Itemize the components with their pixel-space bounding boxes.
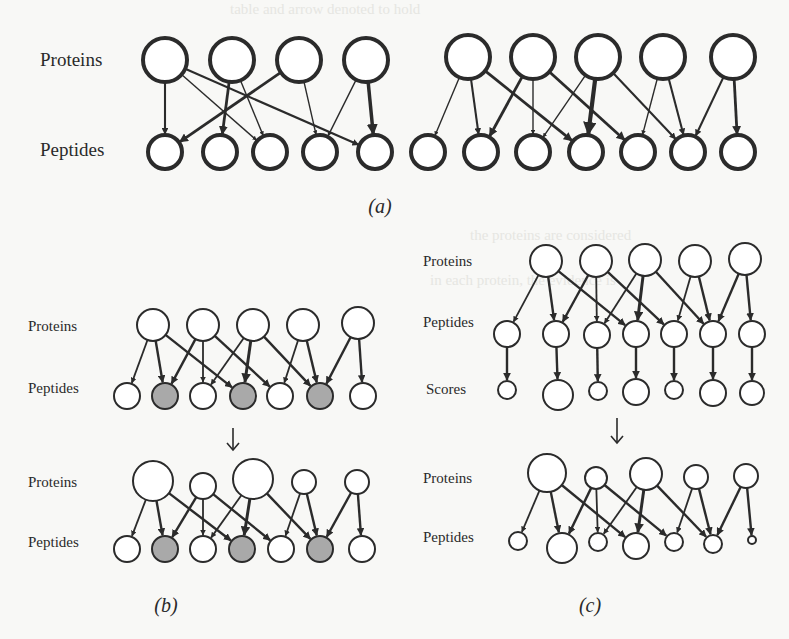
protein-node [679, 245, 711, 277]
peptide-node [358, 135, 392, 169]
score-node [498, 381, 516, 399]
panel-caption-b: (b) [154, 594, 178, 617]
protein-node [292, 470, 316, 494]
edge-arrow [359, 339, 362, 382]
protein-node [729, 243, 761, 275]
peptide-node [569, 135, 603, 169]
peptide-node [589, 533, 607, 551]
protein-node [190, 473, 216, 499]
row-label-proteins: Proteins [28, 318, 77, 334]
figure-protein-peptide-graphs: table and arrow denoted to hold the prot… [0, 0, 789, 639]
edge-arrow [638, 276, 643, 320]
edge-arrow [245, 341, 251, 382]
protein-node [734, 464, 758, 488]
edge-arrow [746, 275, 750, 320]
protein-node [143, 38, 187, 82]
edge-arrow [368, 82, 373, 134]
peptide-node [661, 321, 687, 347]
protein-node [580, 245, 612, 277]
edge-arrow [172, 497, 196, 537]
edge-arrow [551, 492, 559, 533]
edge-arrow [435, 77, 459, 135]
peptide-node [267, 383, 293, 409]
edge-arrow [490, 76, 523, 136]
edge-arrow [597, 348, 598, 381]
panel-caption-a: (a) [368, 195, 392, 218]
row-label-proteins: Proteins [28, 474, 77, 490]
score-node [623, 379, 649, 405]
protein-node [233, 459, 273, 499]
edge-arrow [326, 337, 350, 383]
protein-node [446, 35, 490, 79]
edge-arrow [596, 277, 597, 321]
edge-arrow [132, 500, 146, 536]
peptide-node [623, 321, 649, 347]
peptide-node [190, 536, 216, 562]
edge-arrow [604, 487, 637, 534]
edge-arrow [699, 489, 711, 535]
edge-arrow [156, 501, 162, 536]
peptide-node [494, 321, 520, 347]
row-label-scores: Scores [426, 381, 466, 397]
peptide-node [114, 383, 140, 409]
row-label-proteins: Proteins [423, 470, 472, 486]
peptide-node [721, 135, 755, 169]
protein-node [277, 38, 321, 82]
peptide-node [621, 135, 655, 169]
edge-arrow [211, 495, 241, 537]
edge-arrow [328, 80, 356, 136]
peptide-node-shaded [229, 536, 255, 562]
peptide-node-shaded [230, 383, 256, 409]
edge-arrow [327, 493, 351, 537]
edge-arrow [304, 81, 316, 134]
edge-arrow [556, 347, 557, 379]
edge-arrow [132, 340, 148, 383]
edge-arrow [522, 490, 540, 531]
peptide-node-shaded [152, 536, 178, 562]
edge-arrow [696, 77, 724, 136]
edge-arrow [267, 493, 310, 538]
edge-arrow [638, 490, 644, 532]
peptide-node [748, 536, 756, 544]
peptide-node [464, 135, 498, 169]
row-label-peptides: Peptides [423, 314, 474, 330]
peptide-node [739, 321, 765, 347]
peptide-node [665, 533, 683, 551]
edge-arrow [699, 277, 710, 321]
peptide-node [516, 135, 550, 169]
peptide-node [671, 135, 705, 169]
protein-node [345, 470, 369, 494]
peptide-node [700, 321, 726, 347]
protein-node [137, 309, 169, 341]
edge-arrow [307, 341, 317, 383]
score-node [665, 381, 683, 399]
edge-arrow [307, 494, 317, 536]
protein-node [210, 38, 254, 82]
score-node [589, 382, 607, 400]
peptide-node [303, 135, 337, 169]
protein-node [187, 309, 219, 341]
protein-node [528, 454, 566, 492]
diagram-canvas: table and arrow denoted to hold the prot… [0, 0, 789, 639]
svg-text:table and arrow denoted to hol: table and arrow denoted to hold [230, 1, 421, 17]
peptide-node [253, 135, 287, 169]
peptide-node [190, 383, 216, 409]
peptide-node [704, 535, 722, 553]
peptide-node [584, 322, 610, 348]
edge-arrow [211, 338, 244, 384]
protein-node [287, 309, 319, 341]
edge-arrow [172, 339, 196, 384]
row-label-peptides: Peptides [28, 534, 79, 550]
peptide-node [623, 533, 649, 559]
protein-node [641, 35, 685, 79]
row-label-peptides: Peptides [40, 139, 104, 160]
protein-node [711, 35, 755, 79]
protein-node [133, 461, 173, 501]
protein-node [344, 38, 388, 82]
edge-arrow [264, 337, 310, 386]
down-arrow-icon [227, 428, 239, 450]
edge-arrow [596, 489, 597, 532]
row-label-proteins: Proteins [423, 253, 472, 269]
edge-arrow [471, 79, 479, 134]
peptide-node [268, 536, 294, 562]
